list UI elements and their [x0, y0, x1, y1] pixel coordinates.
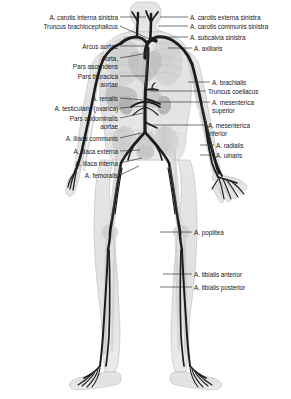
leader-lines	[0, 0, 291, 399]
label-a-mesenterica-inferior: A. mesentericainferior	[208, 122, 250, 137]
label-line: A. poplitea	[194, 229, 224, 237]
label-line: A. ulnaris	[216, 152, 242, 160]
leader-a-testicularis-ovarica	[120, 106, 144, 108]
label-truncus-brachiocephalicus: Truncus brachiocephalicus	[43, 23, 118, 31]
arterial-system-diagram: A. carotis interna sinistraTruncus brach…	[0, 0, 291, 399]
label-line: A. axillaris	[194, 45, 223, 53]
label-carotis-interna-sinistra: A. carotis interna sinistra	[49, 14, 118, 22]
label-line: A. subcalvia sinistra	[190, 34, 245, 42]
label-line: aortae	[70, 123, 118, 131]
label-a-subclavia-sinistra: A. subcalvia sinistra	[190, 34, 245, 42]
label-line: Aorta,	[73, 55, 118, 63]
label-line: A. renalis	[92, 95, 118, 103]
label-line: A. femoralis	[85, 172, 118, 180]
label-line: A. mesenterica	[208, 122, 250, 130]
label-a-iliaca-interna: A. iliaca interna	[75, 160, 118, 168]
label-a-tibialis-anterior: A. tibialis anterior	[194, 271, 242, 279]
label-a-radialis: A. radialis	[216, 142, 244, 150]
label-line: A. iliaca externa	[73, 148, 118, 156]
label-line: A. tibialis posterior	[194, 284, 245, 292]
label-line: A. carotis communis sinistra	[190, 23, 268, 31]
leader-a-femoralis	[120, 166, 139, 175]
label-line: A. iliaca interna	[75, 160, 118, 168]
leader-lines-right	[148, 17, 214, 287]
leader-lines-left	[120, 17, 152, 175]
label-a-axillaris: A. axillaris	[194, 45, 223, 53]
leader-aorta-pars-ascendens	[120, 53, 148, 58]
label-line: A. mesenterica	[212, 99, 254, 107]
label-line: A. iliaca communis	[66, 135, 118, 143]
label-a-tibialis-posterior: A. tibialis posterior	[194, 284, 245, 292]
label-truncus-coeliacus: Truncus coeliacus	[208, 88, 258, 96]
label-line: A. tibialis anterior	[194, 271, 242, 279]
leader-a-iliaca-communis	[120, 133, 141, 138]
label-a-brachialis: A. brachialis	[212, 79, 246, 87]
leader-truncus-brachiocephalicus	[120, 26, 152, 40]
label-aorta-pars-ascendens: Aorta,Pars ascendens	[73, 55, 118, 70]
label-pars-abdominalis-aortae: Pars abdominalisaortae	[70, 115, 118, 130]
label-line: Arcus aortae	[82, 43, 118, 51]
label-a-mesenterica-superior: A. mesentericasuperior	[212, 99, 254, 114]
label-line: Pars thoracica	[78, 73, 118, 81]
leader-a-iliaca-interna	[120, 158, 142, 163]
label-a-iliaca-communis: A. iliaca communis	[66, 135, 118, 143]
label-line: Truncus coeliacus	[208, 88, 258, 96]
leader-a-iliaca-externa	[120, 150, 140, 151]
label-a-renalis: A. renalis	[92, 95, 118, 103]
label-a-poplitea: A. poplitea	[194, 229, 224, 237]
label-a-femoralis: A. femoralis	[85, 172, 118, 180]
leader-a-renalis	[120, 98, 143, 100]
label-arcus-aortae: Arcus aortae	[82, 43, 118, 51]
label-line: Truncus brachiocephalicus	[43, 23, 118, 31]
label-a-iliaca-externa: A. iliaca externa	[73, 148, 118, 156]
label-line: A. carotis interna sinistra	[49, 14, 118, 22]
label-line: A. testicularis (ovarica)	[55, 105, 118, 113]
label-a-testicularis-ovarica: A. testicularis (ovarica)	[55, 105, 118, 113]
label-line: A. carotis externa sinistra	[190, 14, 260, 22]
leader-pars-abdominalis-aortae	[120, 113, 143, 118]
label-line: A. brachialis	[212, 79, 246, 87]
label-line: Pars ascendens	[73, 63, 118, 71]
label-a-ulnaris: A. ulnaris	[216, 152, 242, 160]
label-carotis-externa-sinistra: A. carotis externa sinistra	[190, 14, 260, 22]
label-line: Pars abdominalis	[70, 115, 118, 123]
label-pars-thoracica-aortae: Pars thoracicaaortae	[78, 73, 118, 88]
label-line: A. radialis	[216, 142, 244, 150]
label-line: aortae	[78, 81, 118, 89]
label-carotis-communis-sinistra: A. carotis communis sinistra	[190, 23, 268, 31]
label-line: inferior	[208, 130, 250, 138]
label-line: superior	[212, 107, 254, 115]
